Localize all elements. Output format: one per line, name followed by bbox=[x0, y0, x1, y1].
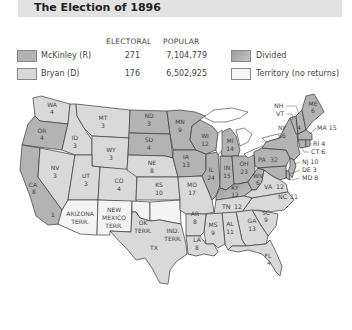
label-la: LA bbox=[193, 236, 201, 243]
legend-label-territory: Territory (no returns) bbox=[256, 69, 339, 78]
legend-label-divided: Divided bbox=[256, 51, 286, 60]
label-fl: FL bbox=[265, 252, 272, 259]
svg-text:13: 13 bbox=[248, 225, 256, 232]
label-ia: IA bbox=[183, 153, 190, 160]
svg-text:36: 36 bbox=[278, 132, 286, 139]
svg-text:32: 32 bbox=[270, 156, 278, 163]
label-mn: MN bbox=[175, 118, 185, 125]
label-tx: TX bbox=[149, 244, 158, 251]
svg-text:23: 23 bbox=[240, 168, 248, 175]
svg-text:10: 10 bbox=[155, 189, 163, 196]
state-wy bbox=[92, 136, 129, 170]
label-ca: CA bbox=[29, 181, 38, 188]
legend: ELECTORAL POPULAR McKinley (R) 271 7,104… bbox=[0, 0, 352, 90]
svg-text:11: 11 bbox=[290, 193, 298, 200]
svg-text:3: 3 bbox=[53, 172, 57, 179]
label-de: DE 3 bbox=[302, 166, 317, 173]
svg-text:8: 8 bbox=[193, 218, 197, 225]
svg-text:11: 11 bbox=[226, 228, 234, 235]
label-wy: WY bbox=[106, 146, 116, 153]
svg-text:3: 3 bbox=[84, 180, 88, 187]
svg-text:24: 24 bbox=[207, 174, 215, 181]
legend-electoral-bryan: 176 bbox=[110, 69, 140, 78]
label-nv: NV bbox=[51, 164, 60, 171]
label-ca-split: 1 bbox=[51, 211, 55, 218]
legend-popular-bryan: 6,502,925 bbox=[155, 69, 207, 78]
label-wa: WA bbox=[47, 101, 58, 108]
svg-text:12: 12 bbox=[234, 203, 242, 210]
legend-swatch-divided bbox=[231, 50, 251, 62]
svg-text:4: 4 bbox=[50, 108, 54, 115]
label-id: ID bbox=[72, 134, 79, 141]
svg-text:9: 9 bbox=[264, 216, 268, 223]
label-wv: WV bbox=[253, 172, 264, 179]
svg-text:6: 6 bbox=[311, 107, 315, 114]
label-ct: CT 6 bbox=[311, 148, 325, 155]
svg-text:MEXICO: MEXICO bbox=[102, 214, 126, 221]
label-vt: VT bbox=[276, 110, 284, 117]
svg-text:17: 17 bbox=[188, 189, 196, 196]
label-il: IL bbox=[208, 166, 214, 173]
label-pa: PA bbox=[258, 156, 266, 163]
svg-text:13: 13 bbox=[182, 161, 190, 168]
label-ga: GA bbox=[248, 217, 258, 224]
label-ms: MS bbox=[209, 221, 218, 228]
label-mi: MI bbox=[227, 137, 234, 144]
label-ny: NY bbox=[278, 124, 286, 131]
legend-swatch-territory bbox=[231, 68, 251, 80]
svg-text:TERR.: TERR. bbox=[104, 222, 123, 229]
svg-text:3: 3 bbox=[101, 122, 105, 129]
svg-text:TERR.: TERR. bbox=[163, 235, 182, 242]
label-vt-nh-votes: 4 bbox=[297, 124, 301, 131]
label-nd: ND bbox=[144, 112, 153, 119]
svg-text:3: 3 bbox=[147, 120, 151, 127]
lake-superior bbox=[205, 108, 248, 122]
svg-text:14: 14 bbox=[226, 145, 234, 152]
svg-text:12: 12 bbox=[276, 183, 284, 190]
legend-electoral-mckinley: 271 bbox=[110, 51, 140, 60]
svg-text:8: 8 bbox=[32, 188, 36, 195]
legend-label-mckinley: McKinley (R) bbox=[41, 51, 91, 60]
label-ri: RI 4 bbox=[313, 140, 325, 147]
label-me: ME bbox=[309, 100, 318, 107]
label-ks: KS bbox=[155, 181, 163, 188]
legend-swatch-bryan bbox=[17, 68, 37, 80]
svg-text:12: 12 bbox=[231, 191, 239, 198]
label-md: MD 8 bbox=[302, 174, 318, 181]
label-ma: MA 15 bbox=[317, 124, 337, 131]
label-new-mexico-terr: NEW bbox=[107, 206, 121, 213]
label-co: CO bbox=[115, 177, 124, 184]
state-ct bbox=[298, 140, 306, 148]
svg-text:4: 4 bbox=[117, 185, 121, 192]
svg-text:8: 8 bbox=[150, 167, 154, 174]
legend-header-electoral: ELECTORAL bbox=[106, 37, 151, 46]
label-sd: SD bbox=[145, 136, 154, 143]
svg-text:TERR.: TERR. bbox=[133, 227, 152, 234]
svg-text:3: 3 bbox=[73, 142, 77, 149]
legend-popular-mckinley: 7,104,779 bbox=[155, 51, 207, 60]
svg-text:12: 12 bbox=[201, 140, 209, 147]
svg-text:4: 4 bbox=[40, 134, 44, 141]
label-arizona-terr: ARIZONA bbox=[66, 210, 94, 217]
label-ne: NE bbox=[148, 159, 156, 166]
legend-swatch-mckinley bbox=[17, 50, 37, 62]
svg-text:9: 9 bbox=[178, 126, 182, 133]
svg-text:TERR.: TERR. bbox=[70, 218, 89, 225]
state-ri bbox=[306, 140, 310, 147]
svg-text:6: 6 bbox=[256, 179, 260, 186]
label-in: IN bbox=[224, 164, 230, 171]
svg-text:4: 4 bbox=[267, 259, 271, 266]
svg-text:15: 15 bbox=[223, 172, 231, 179]
legend-label-bryan: Bryan (D) bbox=[41, 69, 79, 78]
svg-text:4: 4 bbox=[147, 144, 151, 151]
label-sc: SC bbox=[262, 209, 270, 216]
label-al: AL bbox=[226, 220, 234, 227]
us-election-map: WA 4 OR 4 CA 8 1 ID 3 NV 3 MT 3 WY 3 UT … bbox=[0, 92, 352, 330]
svg-text:8: 8 bbox=[195, 244, 199, 251]
label-va: VA bbox=[264, 183, 273, 190]
label-or: OR bbox=[38, 127, 47, 134]
label-ut: UT bbox=[82, 172, 90, 179]
label-ind-terr: IND. bbox=[167, 227, 180, 234]
label-wi: WI bbox=[201, 132, 209, 139]
svg-text:3: 3 bbox=[109, 154, 113, 161]
